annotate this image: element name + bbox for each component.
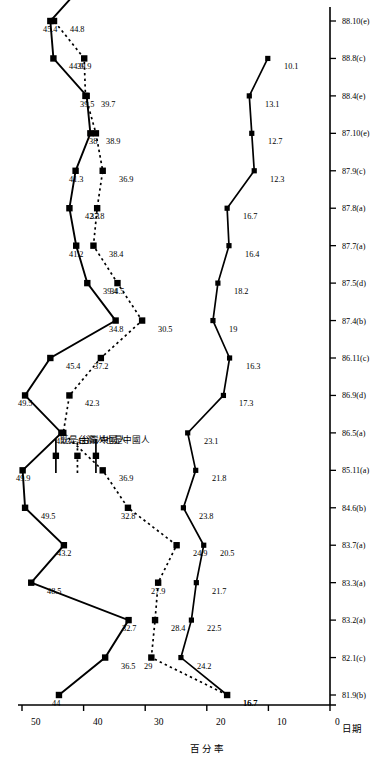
value-axis-tick-label: 30 [154, 717, 164, 727]
data-point-marker [84, 280, 90, 286]
category-axis-tick-label: 87.4(b) [342, 317, 366, 326]
data-point-label: 37.2 [94, 362, 109, 371]
data-point-marker [98, 355, 104, 361]
data-point-marker [47, 355, 53, 361]
data-point-label: 24.2 [197, 662, 212, 671]
data-point-marker [125, 505, 131, 511]
data-point-marker [100, 467, 106, 473]
category-axis-tick-label: 83.2(a) [342, 616, 365, 625]
category-axis-tick-label: 85.11(a) [342, 466, 369, 475]
data-point-label: 44.8 [70, 25, 85, 34]
data-point-label: 21.8 [212, 474, 227, 483]
data-point-label: 22.5 [207, 624, 222, 633]
category-axis-tick-label: 84.6(b) [342, 504, 366, 513]
series-line-1 [54, 21, 227, 695]
data-point-label: 49.5 [41, 512, 56, 521]
data-point-label: 41.2 [69, 250, 84, 259]
data-point-marker [210, 318, 215, 323]
data-point-marker [90, 242, 96, 248]
data-point-label: 16.7 [243, 699, 258, 708]
category-axis-tick-label: 88.8(c) [342, 54, 365, 63]
data-point-marker [100, 168, 106, 174]
data-point-label: 42.3 [85, 399, 100, 408]
data-point-label: 36.9 [119, 175, 134, 184]
data-point-label: 39.7 [101, 100, 116, 109]
category-axis-tick-label: 87.9(c) [342, 167, 365, 176]
data-point-label: 16.4 [245, 250, 260, 259]
category-axis-tick-label: 88.4(e) [342, 92, 365, 101]
data-point-marker [73, 242, 79, 248]
data-point-marker [61, 542, 67, 548]
category-axis-tick-label: 88.10(e) [342, 17, 370, 26]
data-point-marker [50, 55, 56, 61]
data-point-label: 30.5 [158, 325, 173, 334]
data-point-label: 23.8 [199, 512, 214, 521]
data-point-marker [87, 130, 93, 136]
category-axis-tick-label: 87.8(a) [342, 204, 365, 213]
data-point-label: 12.7 [268, 137, 283, 146]
data-point-label: 48.5 [47, 587, 62, 596]
data-point-marker [19, 467, 25, 473]
data-point-label: 39.4 [103, 287, 118, 296]
value-axis-tick-label: 50 [31, 717, 41, 727]
data-point-marker [252, 168, 257, 173]
data-point-label: 12.3 [270, 175, 285, 184]
category-axis-tick-label: 86.11(c) [342, 354, 369, 363]
data-point-label: 17.3 [239, 399, 254, 408]
data-point-label: 16.3 [246, 362, 261, 371]
series-line-0 [181, 58, 268, 695]
data-point-label: 36.5 [121, 662, 136, 671]
data-point-label: 49.5 [18, 399, 33, 408]
data-point-label: 24.9 [193, 549, 208, 558]
value-axis-title: 百分率 [190, 741, 226, 755]
data-point-marker [112, 317, 118, 323]
data-point-label: 44.9 [69, 62, 84, 71]
data-point-label: 32.7 [122, 624, 137, 633]
data-point-marker [148, 654, 154, 660]
category-axis-tick-label: 82.1(c) [342, 654, 365, 663]
data-point-label: 29 [144, 662, 152, 671]
category-axis-tick-label: 86.5(a) [342, 429, 365, 438]
data-point-marker [66, 205, 72, 211]
data-point-marker [28, 579, 34, 585]
data-point-marker [102, 654, 108, 660]
category-axis-tick-label: 87.7(a) [342, 242, 365, 251]
data-point-label: 28.4 [171, 624, 186, 633]
data-point-marker [185, 430, 190, 435]
data-point-marker [22, 392, 28, 398]
value-axis-tick-label: 10 [277, 717, 287, 727]
data-point-marker [178, 655, 183, 660]
value-axis-tick-label: 40 [93, 717, 103, 727]
data-point-label: 38.4 [109, 250, 124, 259]
data-point-label: 19 [229, 325, 237, 334]
data-point-marker [181, 505, 186, 510]
category-axis-tick-label: 81.9(b) [342, 691, 366, 700]
data-point-marker [173, 542, 179, 548]
data-point-label: 39.5 [80, 100, 95, 109]
category-axis-tick-label: 87.5(d) [342, 279, 366, 288]
legend-marker-0 [53, 453, 59, 459]
data-point-marker [189, 618, 194, 623]
category-axis-tick-label: 83.7(a) [342, 541, 365, 550]
data-point-label: 10.1 [284, 62, 299, 71]
data-point-label: 13.1 [265, 100, 280, 109]
data-point-label: 49.9 [16, 474, 31, 483]
data-point-marker [56, 692, 62, 698]
data-point-label: 23.1 [204, 437, 219, 446]
data-point-marker [225, 206, 230, 211]
data-point-marker [247, 93, 252, 98]
data-point-marker [221, 393, 226, 398]
data-point-marker [194, 580, 199, 585]
data-point-marker [81, 55, 87, 61]
category-axis-tick-label: 86.9(d) [342, 391, 366, 400]
data-point-marker [227, 355, 232, 360]
data-point-marker [265, 56, 270, 61]
data-point-marker [47, 18, 53, 24]
data-point-marker [66, 392, 72, 398]
category-axis-tick-label: 87.10(e) [342, 129, 370, 138]
data-point-label: 42.3 [85, 212, 100, 221]
